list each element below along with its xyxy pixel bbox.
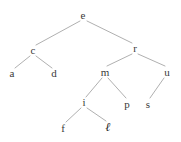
tree-node-i: i bbox=[82, 97, 85, 108]
tree-node-c: c bbox=[31, 45, 36, 56]
binary-tree-figure: ecradmuipsfℓ bbox=[0, 0, 181, 142]
tree-edges-layer bbox=[0, 0, 181, 142]
tree-node-l: ℓ bbox=[105, 121, 110, 133]
tree-edge-i-f bbox=[66, 108, 81, 122]
tree-edge-m-p bbox=[108, 78, 126, 98]
tree-edge-m-i bbox=[86, 78, 102, 97]
tree-edge-i-l bbox=[87, 108, 106, 121]
tree-node-f: f bbox=[61, 123, 65, 134]
tree-node-p: p bbox=[124, 99, 130, 110]
tree-edge-e-r bbox=[87, 21, 132, 43]
tree-edge-r-m bbox=[107, 54, 132, 66]
tree-node-d: d bbox=[51, 68, 57, 79]
tree-edge-c-a bbox=[15, 56, 30, 68]
tree-node-a: a bbox=[10, 68, 15, 79]
tree-node-s: s bbox=[146, 99, 150, 110]
tree-node-u: u bbox=[164, 67, 170, 78]
tree-edge-e-c bbox=[36, 21, 80, 45]
tree-edge-c-d bbox=[36, 56, 52, 68]
edge-group bbox=[15, 21, 165, 122]
tree-node-r: r bbox=[133, 43, 137, 54]
tree-node-m: m bbox=[101, 67, 110, 78]
tree-edge-r-u bbox=[138, 54, 165, 66]
tree-edge-u-s bbox=[150, 78, 164, 98]
tree-node-e: e bbox=[81, 10, 86, 21]
